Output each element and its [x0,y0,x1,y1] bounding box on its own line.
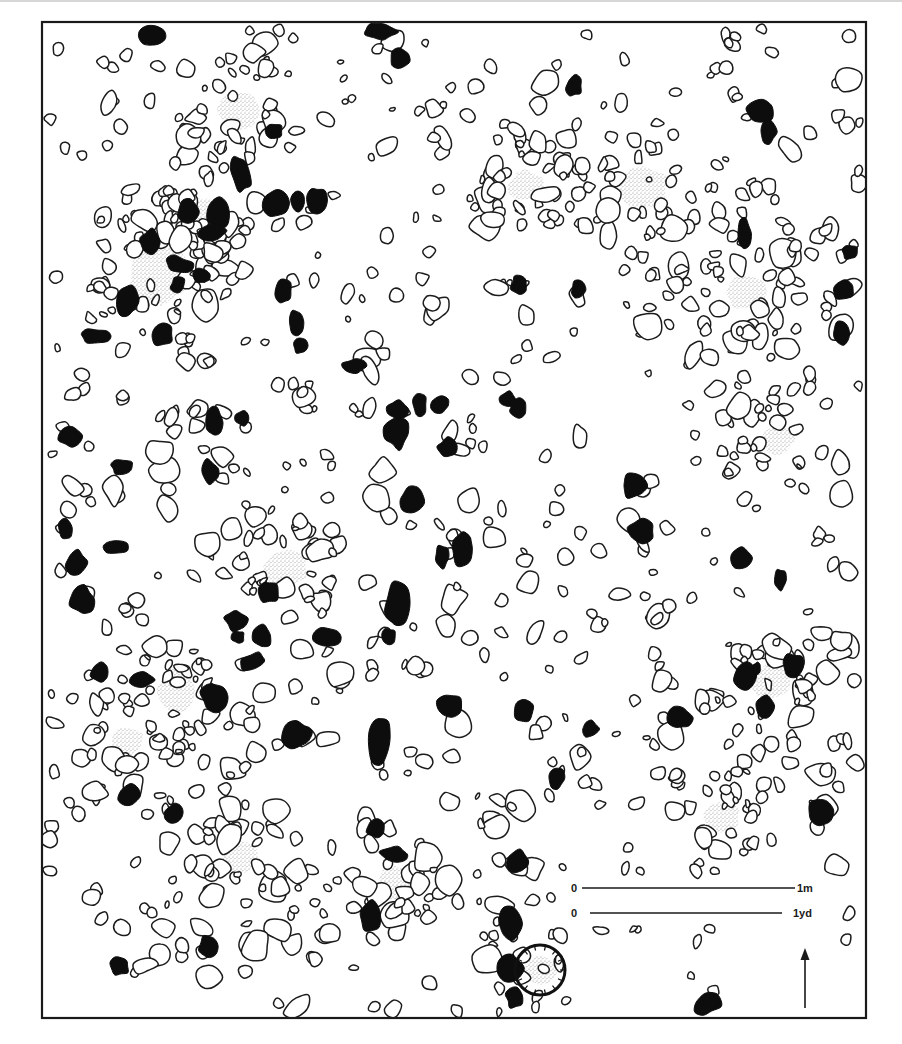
dark-stone [231,631,244,643]
stone-outline [578,775,592,788]
stone-outline [554,631,566,642]
stone-outline [282,487,289,493]
stone-outline [735,382,741,389]
stone-outline [643,736,650,740]
stone-outline [751,744,765,761]
stone-outline [48,690,54,698]
stone-outline [771,195,779,205]
stone-outline [436,615,455,637]
dark-stone [694,992,722,1015]
stone-outline [601,102,607,109]
stone-outline [53,42,63,55]
stone-outline [274,998,284,1008]
stone-outline [666,175,677,187]
dark-stone [667,706,693,727]
stone-outline [291,640,314,659]
stone-outline [645,141,656,153]
stone-outline [146,720,156,732]
stone-outline [811,627,832,641]
stone-outline [242,501,250,509]
north-arrow-icon [801,948,810,1008]
stone-outline [213,80,226,93]
stone-outline [705,184,711,192]
stone-outline [102,258,116,274]
stone-outline [572,118,581,131]
dark-stone [129,672,155,688]
stone-outline [763,270,776,281]
stone-outline [766,405,772,411]
stone-outline [751,444,757,451]
stone-outline [704,925,715,933]
stone-outline [584,182,596,193]
stone-outline [221,518,242,540]
stone-outline [644,234,650,240]
dark-stone [431,396,449,414]
stone-outline [290,906,299,914]
stone-outline [289,679,302,694]
stone-outline [483,527,505,547]
stone-outline [349,965,359,970]
dark-stone [738,217,752,248]
dark-stone [379,846,408,862]
dark-stone [291,191,305,212]
stone-outline [86,312,97,324]
stone-outline [443,749,460,763]
stone-outline [242,800,249,809]
stone-outline [755,453,770,462]
stone-outline [787,737,800,752]
stone-outline [788,706,813,728]
dark-stone [566,74,582,96]
stone-outline [342,99,348,104]
stone-outline [578,218,593,234]
stone-outline [782,757,798,770]
stone-outline [193,676,197,682]
stone-outline [831,631,852,650]
stone-outline [575,158,590,175]
stone-outline [228,128,241,143]
stone-outline [552,60,561,70]
stone-outline [548,757,557,767]
stone-outline [238,965,252,978]
stone-outline [355,411,363,417]
stone-outline [152,919,175,938]
stone-outline [390,288,404,302]
stone-outline [452,894,464,909]
stone-outline [369,457,396,483]
stone-outline [720,785,731,795]
stone-outline [645,370,651,377]
stone-outline [423,295,440,310]
stone-outline [558,548,574,565]
stone-outline [288,377,298,389]
stone-outline [67,693,78,703]
stone-outline [190,649,199,654]
stone-outline [394,898,404,908]
stone-outline [825,854,849,876]
dark-stone [400,486,425,513]
stone-outline [454,582,461,590]
stone-outline [646,177,652,182]
stone-outline [725,771,732,781]
stone-outline [756,24,766,34]
stone-outline [712,202,726,220]
stone-outline [55,563,66,577]
stone-outline [147,907,157,917]
stone-outline [316,732,339,747]
stone-outline [791,324,801,334]
stone-outline [663,291,674,300]
stone-outline [440,102,446,109]
stone-outline [521,548,527,554]
stone-outline [244,531,253,547]
stone-outline [246,26,255,35]
dark-stone [110,957,128,975]
stone-outline [174,299,181,306]
stone-outline [516,140,524,147]
stone-outline [117,645,132,654]
stone-outline [363,397,376,418]
stone-outline [246,741,266,762]
stone-outline [234,872,241,877]
stone-outline [290,832,302,846]
stone-outline [55,344,60,352]
stone-outline [605,172,615,182]
stone-outline [317,112,334,127]
stone-outline [404,770,411,776]
